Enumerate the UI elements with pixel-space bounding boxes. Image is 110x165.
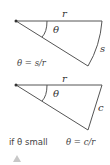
arc-length-label: s — [100, 44, 105, 54]
angle-label: θ — [53, 25, 59, 35]
radius-label: r — [62, 9, 67, 19]
formula-arc: θ = s/r — [17, 59, 46, 68]
triangle-marker-icon — [13, 155, 21, 162]
small-angle-caption: if θ small — [9, 138, 48, 147]
formula-chord: θ = c/r — [66, 138, 95, 147]
chord-label: c — [98, 103, 104, 113]
angle-label-2: θ — [53, 89, 59, 99]
radius-label-2: r — [62, 74, 67, 84]
